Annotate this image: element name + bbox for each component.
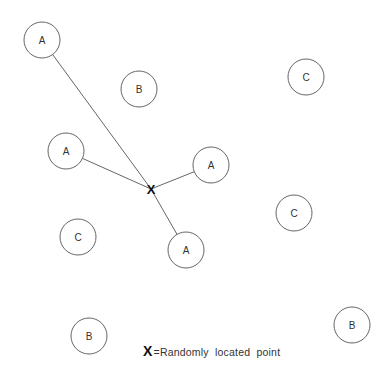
location-circles: ABCAACCABB bbox=[24, 22, 370, 354]
circle-c: C bbox=[276, 195, 312, 231]
circle-b: B bbox=[71, 318, 107, 354]
circle-label: B bbox=[136, 84, 143, 95]
circle-label: C bbox=[290, 208, 297, 219]
circle-b: B bbox=[334, 307, 370, 343]
random-point-marker: X bbox=[147, 182, 156, 197]
connector-line bbox=[82, 158, 151, 189]
circle-c: C bbox=[288, 59, 324, 95]
circle-a: A bbox=[48, 133, 84, 169]
circle-c: C bbox=[60, 219, 96, 255]
circle-a: A bbox=[24, 22, 60, 58]
circle-label: B bbox=[349, 320, 356, 331]
random-point-label: X bbox=[147, 182, 156, 197]
circle-label: A bbox=[63, 146, 70, 157]
circle-a: A bbox=[168, 232, 204, 268]
circle-label: C bbox=[74, 232, 81, 243]
circle-label: B bbox=[86, 331, 93, 342]
circle-label: A bbox=[39, 35, 46, 46]
legend-symbol: X bbox=[143, 343, 153, 359]
circle-a: A bbox=[193, 147, 229, 183]
legend-text: =Randomly located point bbox=[154, 346, 281, 358]
circle-label: A bbox=[208, 160, 215, 171]
circle-label: C bbox=[302, 72, 309, 83]
diagram-canvas: ABCAACCABB X bbox=[0, 0, 392, 374]
circle-b: B bbox=[121, 71, 157, 107]
circle-label: A bbox=[183, 245, 190, 256]
legend: X=Randomly located point bbox=[143, 343, 280, 359]
connector-line bbox=[151, 172, 194, 189]
